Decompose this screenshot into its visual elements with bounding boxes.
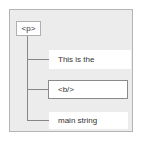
- child-node-label: main string: [58, 116, 97, 125]
- branch-connector-2: [27, 89, 48, 90]
- root-node-label: <p>: [22, 24, 36, 33]
- child-node-b-element: <b/>: [48, 80, 128, 99]
- root-node-p: <p>: [16, 21, 41, 36]
- child-node-text-1: This is the: [49, 50, 131, 69]
- branch-connector-1: [27, 59, 49, 60]
- child-node-text-2: main string: [49, 112, 128, 129]
- tree-trunk-connector: [27, 36, 28, 121]
- branch-connector-3: [27, 120, 49, 121]
- child-node-label: This is the: [58, 55, 94, 64]
- child-node-label: <b/>: [58, 85, 74, 94]
